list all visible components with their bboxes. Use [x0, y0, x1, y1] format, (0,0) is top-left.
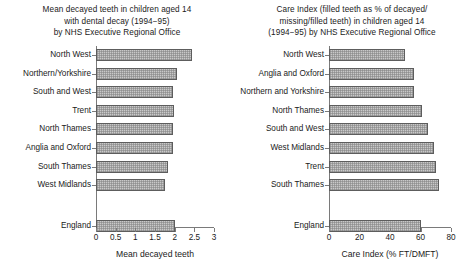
bar — [96, 86, 173, 98]
chart-title-right-line1: Care Index (filled teeth as % of decayed… — [235, 4, 469, 16]
bar — [329, 123, 428, 135]
chart-title-left-line2: with dental decay (1994−95) — [0, 16, 234, 28]
bar-row: Northern and Yorkshire — [329, 83, 451, 103]
bar-row: South and West — [329, 120, 451, 140]
x-tick-mark — [116, 228, 117, 232]
x-tick-mark — [175, 228, 176, 232]
x-ticks-left: 00.511.522.53 — [96, 228, 214, 246]
x-tick-label: 2 — [172, 233, 177, 242]
bar-row: Anglia and Oxford — [329, 65, 451, 85]
bar-row: West Midlands — [96, 176, 214, 196]
bar-row: South and West — [96, 83, 214, 103]
chart-title-right: Care Index (filled teeth as % of decayed… — [235, 4, 469, 39]
x-tick-mark — [360, 228, 361, 232]
x-tick-mark — [421, 228, 422, 232]
x-tick-mark — [194, 228, 195, 232]
x-tick-mark — [329, 228, 330, 232]
chart-panel-care-index: Care Index (filled teeth as % of decayed… — [235, 0, 469, 271]
x-tick-mark — [214, 228, 215, 232]
bar — [96, 142, 173, 154]
bars-container-right: North WestAnglia and OxfordNorthern and … — [329, 46, 451, 228]
x-tick-mark — [135, 228, 136, 232]
x-tick-label: 40 — [385, 233, 394, 242]
bar-row: Anglia and Oxford — [96, 139, 214, 159]
chart-title-right-line2: missing/filled teeth) in children aged 1… — [235, 16, 469, 28]
x-tick-label: 1.5 — [149, 233, 160, 242]
chart-title-left-line3: by NHS Executive Regional Office — [0, 27, 234, 39]
bar — [96, 49, 192, 61]
x-tick-mark — [451, 228, 452, 232]
bar — [329, 105, 422, 117]
bar — [329, 68, 414, 80]
x-ticks-right: 020406080 — [329, 228, 451, 246]
bar-row: West Midlands — [329, 139, 451, 159]
x-tick-label: 0 — [327, 233, 332, 242]
bar-category-label: Anglia and Oxford — [258, 65, 324, 83]
x-tick-label: 60 — [416, 233, 425, 242]
bar-category-label: South and West — [33, 83, 91, 101]
x-tick-label: 2.5 — [189, 233, 200, 242]
bar-category-label: Anglia and Oxford — [25, 139, 91, 157]
x-tick-label: 1 — [133, 233, 138, 242]
bar-category-label: Northern and Yorkshire — [240, 83, 324, 101]
plot-area-right: North WestAnglia and OxfordNorthern and … — [329, 46, 451, 228]
x-tick-label: 0 — [94, 233, 99, 242]
bar — [329, 161, 436, 173]
bar-row: North Thames — [329, 102, 451, 122]
bar-row: South Thames — [329, 176, 451, 196]
bars-container-left: North WestNorthern/YorkshireSouth and We… — [96, 46, 214, 228]
bar — [96, 161, 168, 173]
x-tick-label: 0.5 — [110, 233, 121, 242]
bar-row: North Thames — [96, 120, 214, 140]
bar-row: Trent — [329, 158, 451, 178]
bar-category-label: England — [294, 217, 324, 235]
bar — [329, 142, 434, 154]
x-tick-mark — [96, 228, 97, 232]
x-tick-mark — [155, 228, 156, 232]
plot-area-left: North WestNorthern/YorkshireSouth and We… — [96, 46, 214, 228]
x-axis-title-left: Mean decayed teeth — [96, 249, 214, 259]
x-tick-label: 80 — [446, 233, 455, 242]
bar-category-label: England — [61, 217, 91, 235]
bar-category-label: Trent — [72, 102, 91, 120]
bar-category-label: North Thames — [39, 120, 91, 138]
chart-title-right-line3: (1994−95) by NHS Executive Regional Offi… — [235, 27, 469, 39]
bar-category-label: South and West — [266, 120, 324, 138]
bar — [96, 179, 165, 191]
x-axis-title-right: Care Index (% FT/DMFT) — [329, 249, 451, 259]
bar-row: South Thames — [96, 158, 214, 178]
chart-title-left-line1: Mean decayed teeth in children aged 14 — [0, 4, 234, 16]
bar-category-label: West Midlands — [270, 139, 324, 157]
bar-category-label: Northern/Yorkshire — [23, 65, 91, 83]
chart-panel-mean-decayed-teeth: Mean decayed teeth in children aged 14 w… — [0, 0, 234, 271]
bar — [96, 105, 174, 117]
bar-row: North West — [96, 46, 214, 66]
bar-row: North West — [329, 46, 451, 66]
charts-page: Mean decayed teeth in children aged 14 w… — [0, 0, 469, 271]
bar-category-label: North West — [283, 46, 324, 64]
bar — [96, 123, 173, 135]
x-tick-mark — [390, 228, 391, 232]
bar-category-label: North Thames — [272, 102, 324, 120]
bar-row: Trent — [96, 102, 214, 122]
bar — [329, 49, 405, 61]
bar-row: Northern/Yorkshire — [96, 65, 214, 85]
bar-category-label: West Midlands — [37, 176, 91, 194]
bar — [96, 68, 177, 80]
bar-category-label: South Thames — [271, 176, 324, 194]
bar — [329, 86, 414, 98]
x-tick-label: 20 — [355, 233, 364, 242]
x-tick-label: 3 — [212, 233, 217, 242]
bar-category-label: Trent — [305, 158, 324, 176]
bar-category-label: North West — [50, 46, 91, 64]
bar — [329, 179, 439, 191]
chart-title-left: Mean decayed teeth in children aged 14 w… — [0, 4, 234, 39]
bar-category-label: South Thames — [38, 158, 91, 176]
